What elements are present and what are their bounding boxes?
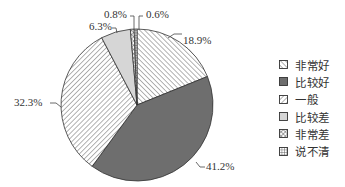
slice-percent-label: 0.8% — [104, 8, 127, 20]
legend-item: 非常好 — [279, 56, 330, 73]
legend-label: 说不清 — [295, 143, 330, 159]
legend-swatch-icon — [279, 95, 288, 104]
legend-item: 说不清 — [279, 142, 330, 159]
legend-swatch-icon — [279, 60, 288, 69]
slice-percent-label: 18.9% — [183, 34, 211, 46]
pie-slices — [61, 29, 213, 181]
leader-line — [139, 16, 143, 30]
legend-label: 比较差 — [295, 109, 330, 125]
legend-item: 比较差 — [279, 108, 330, 125]
legend-swatch-icon — [279, 77, 288, 86]
legend-swatch-icon — [279, 129, 288, 138]
legend-label: 比较好 — [295, 74, 330, 90]
slice-percent-label: 6.3% — [89, 20, 112, 32]
legend-item: 比较好 — [279, 73, 330, 90]
legend: 非常好比较好一般比较差非常差说不清 — [279, 56, 330, 160]
legend-label: 非常好 — [295, 57, 330, 73]
legend-label: 非常差 — [295, 126, 330, 142]
legend-swatch-icon — [279, 147, 288, 156]
leader-line — [130, 16, 134, 30]
legend-swatch-icon — [279, 112, 288, 121]
legend-label: 一般 — [295, 91, 318, 107]
slice-percent-label: 0.6% — [146, 8, 169, 20]
leader-line — [196, 162, 205, 167]
slice-percent-label: 41.2% — [206, 160, 234, 172]
legend-item: 一般 — [279, 91, 330, 108]
slice-percent-label: 32.3% — [14, 96, 42, 108]
legend-item: 非常差 — [279, 125, 330, 142]
leader-line — [50, 103, 61, 107]
